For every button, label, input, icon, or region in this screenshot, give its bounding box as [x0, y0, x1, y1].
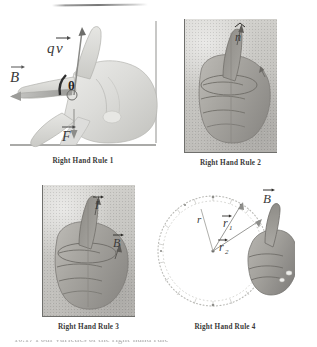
- rhr1-label-B: B: [10, 65, 25, 85]
- svg-text:v: v: [56, 40, 63, 56]
- svg-text:B: B: [113, 236, 121, 250]
- svg-text:r: r: [223, 216, 228, 230]
- clipped-bottom-caption: 10.17 Four varieties of the right-hand r…: [14, 340, 304, 347]
- figure-page: q v B θ F Right: [0, 0, 317, 347]
- svg-text:r: r: [219, 240, 224, 254]
- svg-text:q: q: [47, 40, 55, 56]
- rhr1-label-qv: q v: [47, 36, 71, 56]
- svg-text:B: B: [10, 69, 19, 85]
- rhr4-label-r1: r 1: [222, 215, 233, 233]
- figure-rhr3: I B Right Hand Rule 3: [41, 185, 136, 333]
- rhr4-label-r: r: [197, 213, 202, 225]
- figure-rhr4: r r 1 r 2 B: [155, 185, 295, 333]
- svg-text:B: B: [263, 191, 271, 206]
- rhr2-photo: n: [184, 19, 277, 153]
- caption-rhr3: Right Hand Rule 3: [41, 323, 136, 331]
- rhr1-label-theta: θ: [68, 78, 75, 93]
- caption-rhr1: Right Hand Rule 1: [4, 157, 162, 165]
- svg-text:θ: θ: [68, 78, 75, 93]
- caption-rhr4: Right Hand Rule 4: [155, 323, 295, 331]
- svg-text:F: F: [61, 129, 71, 144]
- caption-rhr2: Right Hand Rule 2: [183, 159, 278, 167]
- rhr4-illustration: r r 1 r 2 B: [155, 185, 295, 317]
- figure-rhr2: n Right Hand Rule 2: [183, 19, 278, 167]
- rhr3-label-I: I: [93, 195, 104, 212]
- svg-text:1: 1: [229, 224, 233, 232]
- rhr2-label-n-hat: n: [235, 23, 245, 44]
- svg-text:r: r: [197, 213, 202, 225]
- svg-text:n: n: [235, 30, 241, 44]
- rhr3-photo: I B: [42, 185, 135, 317]
- top-hairline-artifact: [52, 3, 148, 6]
- svg-text:2: 2: [225, 248, 229, 256]
- figure-rhr1: q v B θ F Right: [4, 17, 162, 167]
- rhr1-illustration: q v B θ F: [4, 17, 162, 155]
- rhr4-label-B: B: [263, 188, 275, 206]
